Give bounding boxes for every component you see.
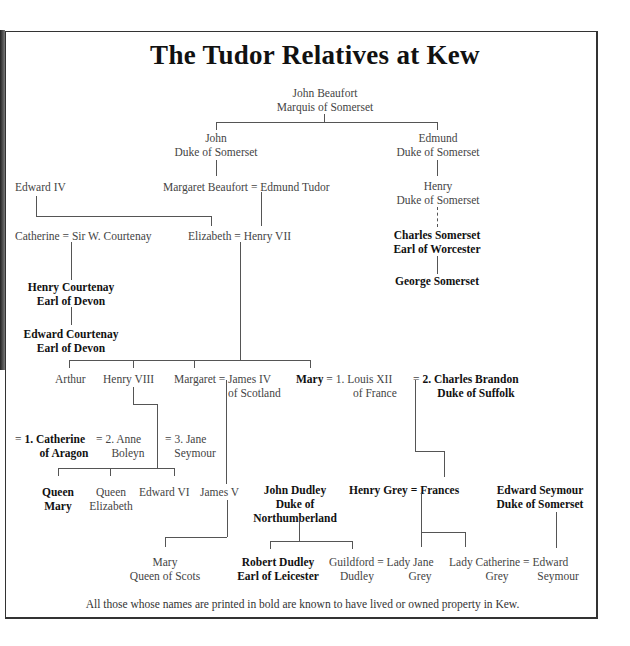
guildford-surname: Dudley	[332, 569, 382, 583]
connector	[240, 242, 241, 360]
connector	[165, 537, 227, 538]
person-henry-somerset: HenryDuke of Somerset	[382, 179, 494, 207]
edward-seymour-surname: Seymour	[530, 569, 586, 583]
charles-brandon-title: Duke of Suffolk	[420, 386, 532, 400]
person-edmund-somerset: EdmundDuke of Somerset	[382, 131, 494, 159]
couple-mary-louis: Mary = 1. Louis XII	[296, 372, 392, 386]
connector	[352, 541, 353, 549]
connector	[216, 122, 217, 130]
connector	[194, 360, 195, 368]
connector	[324, 114, 325, 122]
connector	[226, 380, 227, 484]
connector	[415, 451, 444, 452]
person-john-dudley: John DudleyDuke ofNorthumberland	[242, 483, 348, 525]
diagram-frame	[5, 31, 598, 619]
connector	[133, 404, 157, 405]
person-edward-iv: Edward IV	[15, 180, 66, 194]
connector	[437, 256, 438, 274]
person-edward-vi: Edward VI	[139, 485, 190, 499]
person-edward-courtenay: Edward CourtenayEarl of Devon	[15, 327, 127, 355]
lady-catherine-surname: Grey	[472, 569, 522, 583]
couple-elizabeth-henry-vii: Elizabeth = Henry VII	[188, 229, 291, 243]
louis-xii-title: of France	[353, 386, 397, 400]
person-margaret: Margaret =	[174, 372, 225, 386]
connector	[556, 512, 557, 548]
person-george-somerset: George Somerset	[377, 274, 497, 288]
connector-dashed	[437, 207, 438, 227]
wife-anne-boleyn: = 2. Anne	[96, 432, 141, 446]
couple-catherine-courtenay: Catherine = Sir W. Courtenay	[15, 229, 152, 243]
person-henry-viii: Henry VIII	[103, 372, 154, 386]
connector	[174, 468, 175, 476]
connector	[58, 468, 174, 469]
anne-boleyn-title: Boleyn	[108, 446, 148, 460]
lady-jane-surname: Grey	[395, 569, 445, 583]
connector	[69, 360, 70, 368]
connector	[465, 532, 466, 547]
couple-guildford-jane: Guildford = Lady Jane	[329, 555, 434, 569]
wife-catherine-aragon: = 1. Catherine	[15, 432, 85, 446]
connector	[310, 360, 311, 368]
person-charles-somerset: Charles SomersetEarl of Worcester	[377, 228, 497, 256]
connector	[444, 451, 445, 477]
connector	[71, 242, 72, 280]
connector	[36, 216, 211, 217]
person-queen-mary: QueenMary	[30, 485, 86, 513]
connector	[110, 468, 111, 476]
jane-seymour-title: Seymour	[170, 446, 220, 460]
person-james-v: James V	[200, 485, 239, 499]
connector	[299, 521, 300, 541]
catherine-aragon-title: of Aragon	[34, 446, 94, 460]
connector	[270, 541, 352, 542]
connector	[216, 160, 217, 176]
connector	[36, 196, 37, 216]
connector	[216, 122, 437, 123]
connector	[421, 532, 465, 533]
person-henry-courtenay: Henry CourtenayEarl of Devon	[15, 280, 127, 308]
connector	[261, 192, 262, 226]
person-arthur: Arthur	[55, 372, 86, 386]
person-john-beaufort: John BeaufortMarquis of Somerset	[270, 86, 380, 114]
connector	[211, 216, 212, 226]
connector	[437, 122, 438, 130]
connector	[415, 380, 416, 451]
connector	[58, 468, 59, 476]
person-james-iv: James IVof Scotland	[228, 372, 281, 400]
connector	[421, 492, 422, 547]
connector	[69, 360, 310, 361]
connector	[133, 360, 134, 368]
connector	[71, 307, 72, 325]
wife-jane-seymour: = 3. Jane	[165, 432, 206, 446]
connector	[437, 160, 438, 176]
person-queen-elizabeth: QueenElizabeth	[83, 485, 139, 513]
couple-grey-frances: Henry Grey = Frances	[349, 483, 459, 497]
couple-beaufort-tudor: Margaret Beaufort = Edmund Tudor	[163, 180, 330, 194]
footnote: All those whose names are printed in bol…	[0, 598, 605, 610]
diagram-title: The Tudor Relatives at Kew	[0, 40, 630, 71]
connector	[165, 537, 166, 547]
person-edward-seymour-duke: Edward SeymourDuke of Somerset	[480, 483, 600, 511]
person-john-somerset: JohnDuke of Somerset	[160, 131, 272, 159]
connector	[270, 541, 271, 549]
connector	[157, 404, 158, 468]
person-mary-queen-of-scots: MaryQueen of Scots	[125, 555, 205, 583]
connector	[133, 387, 134, 404]
connector	[227, 500, 228, 537]
person-robert-dudley: Robert DudleyEarl of Leicester	[228, 555, 328, 583]
couple-catherine-edward: Lady Catherine = Edward	[449, 555, 568, 569]
person-charles-brandon: = 2. Charles Brandon	[413, 372, 519, 386]
